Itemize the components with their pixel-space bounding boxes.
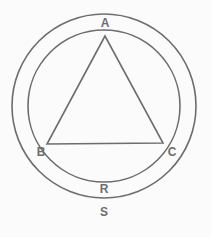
- inscribed-triangle: [47, 36, 163, 144]
- vertex-label-b: B: [37, 146, 46, 158]
- vertex-label-a: A: [101, 17, 110, 29]
- geometry-figure: A B C R S: [0, 0, 211, 237]
- vertex-label-c: C: [168, 146, 177, 158]
- outer-circle: [12, 14, 196, 198]
- region-label-r: R: [100, 183, 109, 195]
- inner-circle: [28, 30, 180, 182]
- geometry-canvas: [0, 0, 211, 237]
- region-label-s: S: [100, 206, 108, 218]
